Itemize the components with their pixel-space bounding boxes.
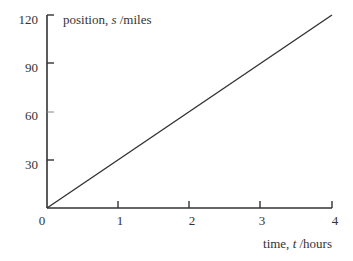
- y-tick-label-30: 30: [25, 157, 38, 172]
- x-axis-label: time, t /hours: [263, 236, 332, 251]
- x-axis-label-prefix: time,: [263, 236, 293, 251]
- position-line: [47, 15, 332, 208]
- y-tick-label-90: 90: [25, 60, 38, 75]
- x-ticks: [118, 201, 332, 208]
- y-tick-label-120: 120: [19, 12, 39, 27]
- x-tick-label-0: 0: [39, 213, 46, 228]
- y-axis-label: position, s /miles: [63, 12, 152, 27]
- x-tick-label-4: 4: [332, 213, 339, 228]
- y-tick-label-60: 60: [25, 108, 38, 123]
- x-axis-label-suffix: /hours: [296, 236, 332, 251]
- y-axis-label-suffix: /miles: [116, 12, 151, 27]
- y-ticks: [47, 15, 54, 160]
- y-axis-label-prefix: position,: [63, 12, 111, 27]
- x-tick-label-3: 3: [259, 213, 266, 228]
- x-tick-label-1: 1: [117, 213, 124, 228]
- x-tick-label-2: 2: [189, 213, 196, 228]
- position-time-chart: 120 90 60 30 0 1 2 3 4 position, s /mile…: [0, 0, 353, 261]
